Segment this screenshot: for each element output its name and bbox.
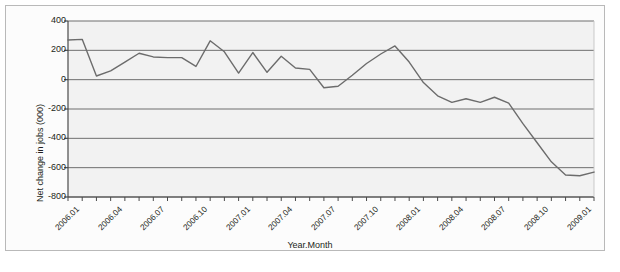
y-axis-title-wrapper: Net change in jobs (000) — [16, 40, 30, 180]
x-axis-title: Year.Month — [0, 240, 620, 250]
y-axis-title: Net change in jobs (000) — [35, 83, 45, 223]
x-axis-tick-labels: 2006.012006.042006.072006.102007.012007.… — [0, 0, 620, 272]
figure-container: 4002000-200-400-600-800 2006.012006.0420… — [0, 0, 620, 272]
